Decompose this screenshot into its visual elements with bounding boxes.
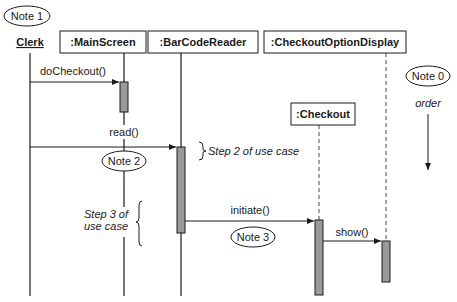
step-2-annotation: Step 2 of use case: [199, 142, 299, 160]
actor-clerk-label: Clerk: [16, 36, 44, 48]
message-docheckout: doCheckout(): [30, 65, 119, 82]
note-2-label: Note 2: [108, 155, 140, 167]
object-barcodereader: :BarCodeReader: [148, 31, 258, 296]
message-initiate: initiate(): [185, 204, 314, 221]
activation-barcodereader: [177, 147, 185, 233]
step-2-brace: [199, 142, 206, 160]
activation-mainscreen: [120, 82, 128, 112]
note-3-label: Note 3: [237, 231, 269, 243]
object-checkoutoptiondisplay-label: :CheckoutOptionDisplay: [271, 36, 400, 48]
message-initiate-label: initiate(): [230, 204, 269, 216]
message-read-label: read(): [109, 126, 138, 138]
message-show: show(): [323, 226, 381, 241]
object-mainscreen-label: :MainScreen: [70, 36, 136, 48]
sequence-diagram: Note 1 Clerk :MainScreen :BarCodeReader …: [0, 0, 457, 302]
note-0-label: Note 0: [412, 70, 444, 82]
note-0: Note 0: [406, 66, 450, 86]
step-3-annotation: Step 3 of use case: [84, 201, 142, 246]
object-barcodereader-label: :BarCodeReader: [160, 36, 248, 48]
message-read: read(): [30, 125, 176, 147]
message-docheckout-label: doCheckout(): [40, 65, 106, 77]
step-3-label-line2: use case: [84, 220, 128, 232]
step-2-label: Step 2 of use case: [208, 145, 299, 157]
order-label: order: [415, 97, 442, 109]
order-annotation: order: [415, 97, 442, 170]
note-1-label: Note 1: [11, 10, 43, 22]
note-3: Note 3: [231, 227, 275, 247]
note-1: Note 1: [4, 6, 50, 26]
note-2: Note 2: [102, 151, 146, 171]
object-checkout-label: :Checkout: [296, 108, 350, 120]
message-show-label: show(): [335, 226, 368, 238]
step-3-label-line1: Step 3 of: [84, 208, 129, 220]
activation-checkout: [315, 220, 323, 295]
object-checkout: :Checkout: [291, 103, 355, 295]
activation-checkoutoptiondisplay: [382, 241, 390, 282]
step-3-brace: [136, 201, 142, 246]
